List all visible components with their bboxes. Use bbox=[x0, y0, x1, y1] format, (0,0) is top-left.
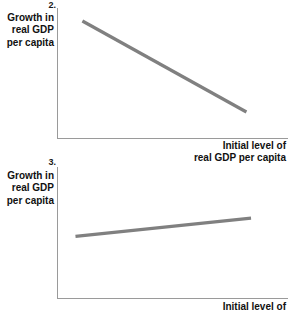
x-axis-label-3-line-1: Initial level of bbox=[223, 301, 286, 313]
trend-line-3 bbox=[75, 218, 251, 236]
figure-3: 3. Growth in real GDP per capita Initial… bbox=[0, 157, 288, 315]
plot-area-3 bbox=[0, 157, 288, 315]
x-axis-label-3: Initial level of bbox=[223, 301, 286, 313]
figure-2: 2. Growth in real GDP per capita Initial… bbox=[0, 0, 288, 165]
trend-line-2 bbox=[82, 21, 246, 112]
x-axis-label-2-line-1: Initial level of bbox=[194, 140, 286, 152]
